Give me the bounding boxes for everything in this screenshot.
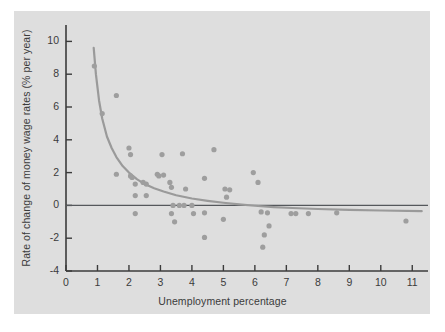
scatter-point [128,152,133,157]
scatter-point [288,211,293,216]
y-axis-tick-marks [66,41,72,271]
y-axis-label-container: Rate of change of money wage rates (% pe… [20,0,36,298]
x-axis-label: Unemployment percentage [0,295,445,307]
scatter-point [126,145,131,150]
scatter-point [251,170,256,175]
phillips-curve-figure: Rate of change of money wage rates (% pe… [0,0,445,332]
scatter-point [306,211,311,216]
x-tick-label: 2 [118,276,140,288]
scatter-point [262,232,267,237]
x-tick-label: 8 [307,276,329,288]
y-axis-label: Rate of change of money wage rates (% pe… [20,0,32,298]
scatter-point [159,152,164,157]
scatter-point [260,245,265,250]
scatter-point [183,186,188,191]
x-tick-label: 11 [401,276,423,288]
scatter-point [100,111,105,116]
y-tick-label: 10 [35,34,59,46]
scatter-point [202,235,207,240]
scatter-point [293,211,298,216]
scatter-point [265,210,270,215]
scatter-point [180,151,185,156]
scatter-point [211,147,216,152]
scatter-point [133,181,138,186]
scatter-point [172,219,177,224]
scatter-point [92,63,97,68]
scatter-point [130,175,135,180]
x-tick-label: 7 [275,276,297,288]
y-tick-label: 0 [35,198,59,210]
scatter-point [202,176,207,181]
scatter-data-points [92,63,409,249]
scatter-point [227,187,232,192]
scatter-point [114,172,119,177]
scatter-point [255,180,260,185]
y-tick-label: 8 [35,67,59,79]
x-tick-label: 5 [212,276,234,288]
scatter-point [259,209,264,214]
scatter-point [167,180,172,185]
scatter-point [334,210,339,215]
y-tick-label: -4 [35,264,59,276]
scatter-point [133,211,138,216]
axes-group [66,25,428,271]
y-tick-label: 2 [35,166,59,178]
scatter-point [224,195,229,200]
x-tick-label: 0 [55,276,77,288]
scatter-point [144,193,149,198]
scatter-point [169,211,174,216]
y-tick-label: -2 [35,231,59,243]
scatter-point [144,181,149,186]
x-tick-label: 9 [338,276,360,288]
scatter-point [403,218,408,223]
y-tick-label: 4 [35,133,59,145]
x-axis-tick-marks [66,265,412,271]
scatter-point [202,210,207,215]
scatter-point [114,93,119,98]
scatter-point [170,203,175,208]
x-tick-label: 10 [370,276,392,288]
scatter-point [266,223,271,228]
scatter-point [156,173,161,178]
x-tick-label: 1 [86,276,108,288]
x-tick-label: 4 [181,276,203,288]
scatter-point [221,217,226,222]
scatter-point [161,172,166,177]
scatter-point [169,185,174,190]
scatter-point [191,211,196,216]
y-tick-label: 6 [35,100,59,112]
scatter-point [133,193,138,198]
scatter-point [181,203,186,208]
scatter-point [222,186,227,191]
x-tick-label: 3 [149,276,171,288]
scatter-point [189,203,194,208]
scatter-point [177,203,182,208]
fitted-phillips-curve [94,48,422,211]
x-tick-label: 6 [244,276,266,288]
